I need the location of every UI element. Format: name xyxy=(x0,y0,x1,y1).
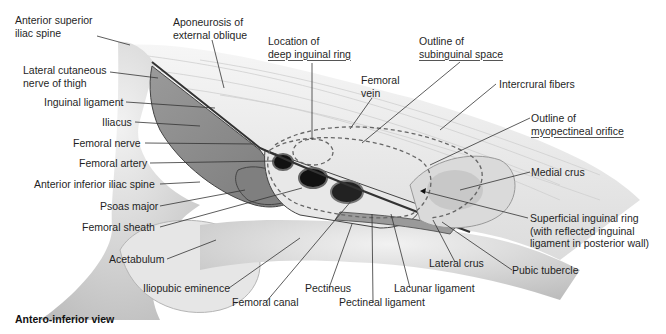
label-line: Superficial inguinal ring xyxy=(530,212,649,225)
label-line: Outline of xyxy=(531,112,624,125)
label-line: ligament in posterior wall) xyxy=(530,237,649,250)
label-lacunar-ligament: Lacunar ligament xyxy=(394,282,475,295)
label-line: Femoral xyxy=(361,74,400,87)
label-pectineal-ligament: Pectineal ligament xyxy=(339,296,425,309)
label-line: external oblique xyxy=(173,29,247,42)
label-line: (with reflected inguinal xyxy=(530,225,649,238)
label-aponeurosis-external-oblique: Aponeurosis of external oblique xyxy=(173,16,247,41)
label-pectineus: Pectineus xyxy=(305,282,351,295)
label-femoral-canal: Femoral canal xyxy=(232,296,299,309)
label-femoral-nerve: Femoral nerve xyxy=(73,137,141,150)
label-iliacus: Iliacus xyxy=(102,116,132,129)
label-superficial-inguinal-ring: Superficial inguinal ring (with reflecte… xyxy=(530,212,649,250)
label-line: myopectineal orifice xyxy=(531,125,624,138)
label-psoas-major: Psoas major xyxy=(100,200,158,213)
label-femoral-sheath: Femoral sheath xyxy=(82,221,155,234)
figure-caption: Antero-inferior view xyxy=(15,313,114,325)
label-deep-inguinal-ring: Location of deep inguinal ring xyxy=(268,35,351,60)
label-subinguinal-space: Outline of subinguinal space xyxy=(419,35,503,60)
label-intercrural-fibers: Intercrural fibers xyxy=(499,78,575,91)
label-iliopubic-eminence: Iliopubic eminence xyxy=(143,282,230,295)
label-acetabulum: Acetabulum xyxy=(109,253,164,266)
label-line: subinguinal space xyxy=(419,48,503,61)
label-line: deep inguinal ring xyxy=(268,48,351,61)
label-lateral-crus: Lateral crus xyxy=(429,257,484,270)
label-line: iliac spine xyxy=(15,27,93,40)
label-anterior-superior-iliac-spine: Anterior superior iliac spine xyxy=(15,14,93,39)
label-femoral-artery: Femoral artery xyxy=(79,157,147,170)
label-line: Anterior superior xyxy=(15,14,93,27)
label-line: Lateral cutaneous xyxy=(23,64,106,77)
label-inguinal-ligament: Inguinal ligament xyxy=(44,96,123,109)
label-line: nerve of thigh xyxy=(23,77,106,90)
label-line: Outline of xyxy=(419,35,503,48)
label-line: vein xyxy=(361,87,400,100)
label-medial-crus: Medial crus xyxy=(531,166,585,179)
label-myopectineal-orifice: Outline of myopectineal orifice xyxy=(531,112,624,137)
label-line: Location of xyxy=(268,35,351,48)
label-femoral-vein: Femoral vein xyxy=(361,74,400,99)
label-anterior-inferior-iliac-spine: Anterior inferior iliac spine xyxy=(34,178,155,191)
label-pubic-tubercle: Pubic tubercle xyxy=(512,264,579,277)
label-lateral-cutaneous-nerve: Lateral cutaneous nerve of thigh xyxy=(23,64,106,89)
label-line: Aponeurosis of xyxy=(173,16,247,29)
